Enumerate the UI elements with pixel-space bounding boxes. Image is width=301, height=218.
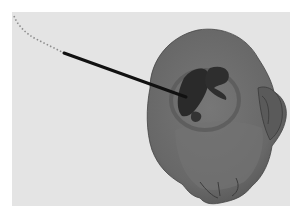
head-render: [12, 12, 290, 206]
render-viewport[interactable]: [12, 12, 290, 206]
trajectory-dots: [14, 16, 62, 52]
